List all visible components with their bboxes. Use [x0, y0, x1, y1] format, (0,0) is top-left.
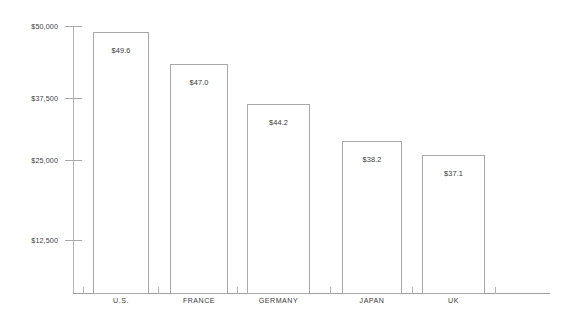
- bar-value-label: $47.0: [170, 78, 228, 87]
- x-axis-category-label: FRANCE: [168, 297, 230, 305]
- y-axis-tick-label-wrap: $50,000: [0, 22, 58, 32]
- y-axis-tick-label: $50,000: [6, 22, 58, 31]
- y-axis-tick-label: $12,500: [6, 236, 58, 245]
- x-axis-tick-mark: [330, 287, 331, 294]
- x-axis-category-label: GERMANY: [245, 297, 312, 305]
- bar-value-label: $49.6: [93, 46, 149, 55]
- bar-value-label: $37.1: [422, 169, 485, 178]
- y-axis-tick-label-wrap: $12,500: [0, 236, 58, 246]
- x-axis-category-label: JAPAN: [340, 297, 404, 305]
- bar-value-label: $38.2: [342, 155, 402, 164]
- bar-value-label: $44.2: [247, 118, 310, 127]
- y-axis-tick-mark: [65, 240, 82, 241]
- y-axis-tick-label: $25,000: [6, 156, 58, 165]
- x-axis-tick-mark: [495, 287, 496, 294]
- x-axis-tick-mark: [158, 287, 159, 294]
- bar-germany[interactable]: [247, 104, 310, 294]
- x-axis-tick-mark: [412, 287, 413, 294]
- x-axis-tick-mark: [83, 287, 84, 294]
- y-axis-tick-mark: [65, 98, 82, 99]
- y-axis-tick-label-wrap: $25,000: [0, 156, 58, 166]
- x-axis-category-label: UK: [422, 297, 485, 305]
- x-axis-category-label: U.S.: [93, 297, 149, 305]
- bar-us[interactable]: [93, 32, 149, 294]
- x-axis-tick-mark: [237, 287, 238, 294]
- y-axis-tick-label: $37,500: [6, 94, 58, 103]
- bar-chart: $50,000 $37,500 $25,000 $12,500 $49.6 $4…: [0, 0, 562, 324]
- y-axis-tick-mark: [65, 160, 82, 161]
- y-axis-tick-label-wrap: $37,500: [0, 94, 58, 104]
- bar-france[interactable]: [170, 64, 228, 294]
- y-axis-tick-mark: [65, 26, 82, 27]
